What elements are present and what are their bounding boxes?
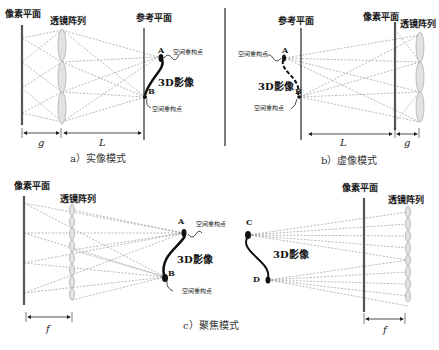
panel-b-leader-b [291,99,297,109]
panel-c-right-lens-array [406,206,411,302]
panel-c-point-d: D [253,274,260,284]
panel-c-left-rays [24,203,183,300]
panel-c-right-dim-f: f [382,324,389,335]
panel-b-point-a: A [281,45,289,55]
panel-a-pixel-plane-label: 像素平面 [4,8,41,19]
panel-c-point-c: C [246,217,252,227]
panel-c-leader-a [188,231,202,237]
panel-a-leader-a [164,55,179,60]
panel-a-reference-plane-label: 参考平面 [136,12,172,23]
panel-a-dim-g: g [38,137,44,148]
panel-a-point-a: A [157,45,165,55]
panel-a-reconstruction-point-b: 空间重构点 [152,105,182,113]
panel-a-lens-array-label: 透镜阵列 [50,15,86,26]
panel-c-right-3d-image-curve [246,238,268,278]
panel-b-rays [285,30,420,122]
panel-c-point-b: B [168,268,175,278]
panel-b-3d-image-label: 3D影像 [258,80,295,92]
panel-c-caption: c）聚焦模式 [183,319,239,331]
panel-a-reconstruction-point-a: 空间重构点 [173,48,203,56]
panel-a-real-image-mode: 像素平面 透镜阵列 参考平面 [4,8,203,164]
panel-b-lens-array-label: 透镜阵列 [400,18,436,29]
panel-c-focused-mode: 像素平面 透镜阵列 [13,180,424,335]
panel-b-dim-g: g [404,137,410,148]
panel-b-reconstruction-point-b: 空间重构点 [254,104,284,112]
panel-b-caption: b）虚像模式 [321,154,377,166]
panel-c-left-lens-array [70,204,75,300]
panel-c-right-3d-image-label: 3D影像 [273,248,310,260]
panel-c-right-lens-array-label: 透镜阵列 [388,194,424,205]
panel-a-lens-array [58,29,66,124]
panel-a-caption: a）实像模式 [70,152,126,164]
panel-c-left-dim-f: f [45,323,52,334]
panel-b-reconstruction-point-a: 空间重构点 [238,50,268,58]
panel-a-rays [22,30,158,122]
panel-a-dim-l: L [98,137,106,148]
panel-a-leader-b [147,99,152,108]
panel-b-pixel-plane-label: 像素平面 [362,11,399,22]
panel-b-leader-a [267,55,281,61]
panel-a-3d-image-label: 3D影像 [158,76,195,88]
panel-b-reference-plane-label: 参考平面 [278,15,314,26]
panel-c-leader-b [167,281,173,291]
panel-c-left-3d-image-label: 3D影像 [177,253,214,265]
panel-b-virtual-image-mode: 参考平面 像素平面 透镜阵列 A B 空间重构点 空 [238,11,436,166]
integral-imaging-diagram: 像素平面 透镜阵列 参考平面 [0,0,439,350]
panel-c-right-pixel-plane-label: 像素平面 [341,182,378,193]
panel-a-point-b: B [148,86,155,96]
panel-c-left-lens-array-label: 透镜阵列 [60,193,96,204]
panel-b-lens-array [416,32,424,122]
panel-c-left-pixel-plane-label: 像素平面 [13,180,50,191]
panel-c-right-rays [248,212,408,306]
panel-c-reconstruction-point-b: 空间重构点 [182,287,212,295]
panel-c-reconstruction-point-a: 空间重构点 [196,220,226,228]
panel-b-dim-l: L [339,137,347,148]
panel-b-point-b: B [295,86,302,96]
panel-c-point-a: A [177,216,185,226]
